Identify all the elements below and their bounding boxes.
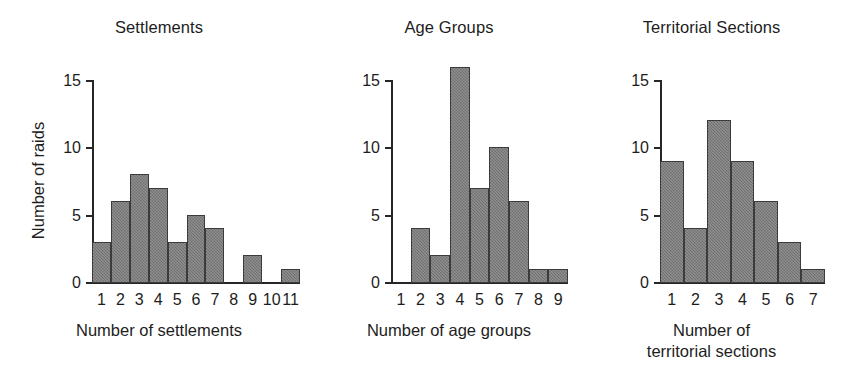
x-axis-tick-label: 4 [154,291,163,309]
x-axis-label-line-2: territorial sections [580,341,843,362]
plot-area: 051015123456789Number of age groups [318,0,580,389]
x-axis-tick-label: 6 [785,291,794,309]
y-axis-tick-label: 15 [631,72,649,90]
histogram-bar [149,188,168,283]
y-axis-tick-label: 0 [640,274,649,292]
x-axis-tick-label: 1 [97,291,106,309]
histogram-bar [92,242,111,283]
x-axis-tick-label: 4 [455,291,464,309]
histogram-bar [281,269,300,283]
histogram-bar [548,269,568,283]
histogram-bar [450,67,470,283]
x-axis-tick-label: 3 [436,291,445,309]
x-axis-tick-label: 4 [738,291,747,309]
x-axis-tick-label: 9 [248,291,257,309]
y-axis-tick-label: 5 [371,207,380,225]
y-axis-tick-label: 0 [371,274,380,292]
y-axis-tick-label: 0 [72,274,81,292]
histogram-bar [509,201,529,283]
x-axis-tick-label: 3 [714,291,723,309]
y-axis-tick-label: 15 [63,72,81,90]
x-axis-label: Number of age groups [318,320,580,341]
y-axis-tick-label: 15 [362,72,380,90]
y-axis-tick [385,282,391,284]
y-axis-tick [654,80,660,82]
histogram-bar [130,174,149,283]
x-axis-tick-label: 2 [116,291,125,309]
histogram-bar [187,215,206,283]
y-axis-tick-label: 10 [631,139,649,157]
y-axis-tick [385,147,391,149]
x-axis-tick-label: 8 [229,291,238,309]
y-axis-tick [86,215,92,217]
y-axis-tick-label: 10 [362,139,380,157]
x-axis-tick-label: 5 [475,291,484,309]
chart-panel-2: Age Groups051015123456789Number of age g… [318,0,580,389]
x-axis-tick-label: 2 [691,291,700,309]
x-axis-tick-label: 11 [282,291,299,309]
x-axis-tick-label: 3 [135,291,144,309]
chart-panel-3: Territorial Sections0510151234567Number … [580,0,843,389]
x-axis-tick-label: 2 [416,291,425,309]
histogram-bar [778,242,802,283]
histogram-bar [111,201,130,283]
x-axis-label-line-1: Number of [580,320,843,341]
x-axis-tick-label: 1 [667,291,676,309]
x-axis-tick-label: 7 [809,291,818,309]
plot-area: 0510151234567891011Number of settlements… [0,0,318,389]
histogram-bar [205,228,224,283]
histogram-bar [754,201,778,283]
y-axis-tick [86,80,92,82]
histogram-bar [489,147,509,283]
y-axis-tick [385,80,391,82]
y-axis-tick-label: 10 [63,139,81,157]
histogram-bar [243,255,262,283]
x-axis-tick-label: 1 [396,291,405,309]
y-axis-label: Number of raids [29,60,48,302]
x-axis-tick-label: 7 [210,291,219,309]
histogram-bar [801,269,825,283]
plot-area: 0510151234567Number ofterritorial sectio… [580,0,843,389]
y-axis-tick [385,215,391,217]
y-axis-tick [654,147,660,149]
x-axis-tick-label: 9 [554,291,563,309]
x-axis-tick-label: 6 [192,291,201,309]
y-axis-line [391,80,393,284]
histogram-figure: Settlements0510151234567891011Number of … [0,0,843,389]
x-axis-label: Number ofterritorial sections [580,320,843,362]
histogram-bar [731,161,755,283]
x-axis-tick-label: 10 [263,291,281,309]
histogram-bar [430,255,450,283]
x-axis-tick-label: 5 [173,291,182,309]
chart-panel-1: Settlements0510151234567891011Number of … [0,0,318,389]
histogram-bar [411,228,431,283]
x-axis-label: Number of settlements [0,320,318,341]
histogram-bar [529,269,549,283]
histogram-bar [470,188,490,283]
y-axis-tick [86,147,92,149]
histogram-bar [660,161,684,283]
x-axis-tick-label: 8 [534,291,543,309]
y-axis-tick-label: 5 [72,207,81,225]
x-axis-tick-label: 7 [514,291,523,309]
y-axis-tick-label: 5 [640,207,649,225]
histogram-bar [684,228,708,283]
histogram-bar [168,242,187,283]
histogram-bar [707,120,731,283]
x-axis-tick-label: 5 [762,291,771,309]
x-axis-tick-label: 6 [495,291,504,309]
